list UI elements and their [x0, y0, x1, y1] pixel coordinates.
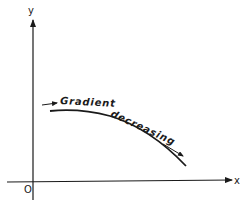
x-axis-line [7, 180, 232, 182]
gradient-diagram: y x O Gradient decreasing [0, 0, 245, 207]
start-arrow-icon [42, 103, 57, 105]
x-axis: x [7, 175, 240, 186]
origin-label: O [24, 184, 32, 195]
gradient-label: Gradient [60, 95, 116, 109]
y-axis: y [28, 5, 34, 200]
y-axis-label: y [28, 5, 34, 16]
x-axis-label: x [234, 175, 240, 186]
decreasing-label: decreasing [109, 108, 177, 148]
